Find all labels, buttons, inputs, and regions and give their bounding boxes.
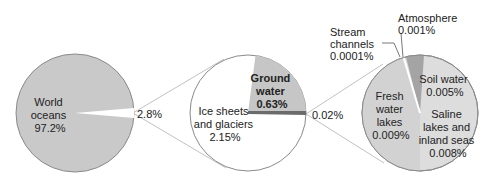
label-2.8: 2.8%	[137, 108, 162, 120]
leader-stream	[394, 43, 400, 57]
label-0.02: 0.02%	[312, 109, 343, 121]
label-ground-water: Ground water 0.63%	[251, 72, 294, 110]
label-atmosphere: Atmosphere 0.001%	[398, 12, 460, 36]
label-stream-channels: Stream channels 0.0001%	[330, 26, 377, 62]
water-distribution-chart: World oceans 97.2% 2.8% Ice sheets and g…	[0, 0, 496, 188]
leader-atmosphere	[401, 33, 403, 57]
label-soil-water: Soil water 0.005%	[419, 73, 470, 98]
label-world-oceans: World oceans 97.2%	[31, 96, 70, 134]
label-fresh-water-lakes: Fresh water lakes 0.009%	[372, 90, 410, 141]
